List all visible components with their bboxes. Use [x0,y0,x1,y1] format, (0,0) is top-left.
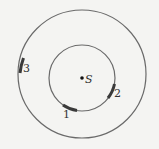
patch-1-label: 1 [63,108,70,121]
gauss-diagram: S 1 2 3 [0,0,159,149]
patch-3-label: 3 [23,62,30,75]
patch-2-label: 2 [114,87,121,100]
source-label: S [85,73,93,86]
point-source [80,76,84,80]
outer-circle [18,10,146,138]
